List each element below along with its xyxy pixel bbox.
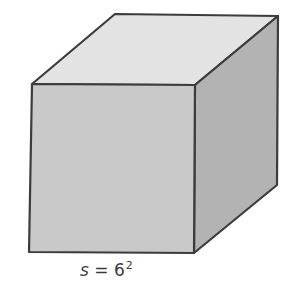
cube-side-label: s = 62 bbox=[80, 259, 133, 280]
equals-sign: = bbox=[89, 260, 114, 280]
cube-diagram bbox=[0, 0, 298, 282]
side-variable: s bbox=[80, 260, 89, 280]
cube-front-face bbox=[29, 84, 195, 253]
base-value: 6 bbox=[114, 260, 125, 280]
exponent-value: 2 bbox=[126, 259, 133, 272]
